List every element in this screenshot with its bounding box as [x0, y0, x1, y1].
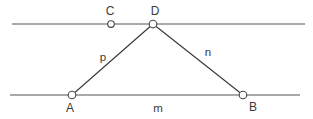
point-label-a: A — [66, 101, 74, 115]
segment-ad — [72, 24, 153, 95]
side-label-m: m — [153, 102, 163, 114]
point-marker-c — [108, 21, 115, 28]
point-label-b: B — [249, 100, 257, 114]
point-label-c: C — [106, 4, 115, 18]
side-label-p: p — [100, 51, 106, 63]
point-label-d: D — [151, 4, 160, 18]
point-marker-d — [149, 20, 157, 28]
geometry-diagram: C D A B p n m — [0, 0, 313, 119]
point-marker-b — [239, 91, 247, 99]
diagram-canvas: C D A B p n m — [0, 0, 313, 119]
point-marker-a — [68, 91, 76, 99]
side-label-n: n — [205, 46, 211, 58]
segment-db — [153, 24, 243, 95]
